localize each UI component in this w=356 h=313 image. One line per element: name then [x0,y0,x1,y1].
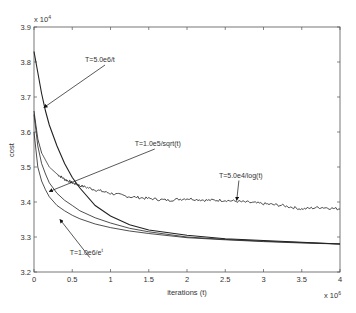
y-tick-label: 3.6 [21,128,31,137]
x-tick-label: 4 [338,275,342,284]
x-tick-label: 0.5 [67,275,77,284]
x-tick-label: 1.5 [144,275,154,284]
y-multiplier: x 104 [34,14,51,24]
y-tick-label: 3.4 [21,198,31,207]
x-tick-label: 2.5 [220,275,230,284]
x-tick-label: 2 [185,275,189,284]
y-axis-label: cost [7,142,16,157]
x-tick-label: 1 [108,275,112,284]
x-tick-label: 3 [261,275,265,284]
series-annotation: T=5.0e4/log(t) [219,172,263,180]
x-axis-label: iterations (t) [167,288,207,297]
y-tick-label: 3.3 [21,233,31,242]
series-annotation: T=1.0e5/sqrt(t) [135,140,181,148]
y-tick-label: 3.9 [21,23,31,32]
x-multiplier: x 106 [324,290,341,300]
cost-vs-iterations-chart: 00.511.522.533.543.23.33.43.53.63.73.83.… [0,0,356,313]
y-tick-label: 3.2 [21,268,31,277]
series-annotation: T=5.0e6/t [85,56,115,63]
x-tick-label: 3.5 [297,275,307,284]
y-tick-label: 3.7 [21,93,31,102]
chart-canvas: 00.511.522.533.543.23.33.43.53.63.73.83.… [0,0,356,313]
y-tick-label: 3.5 [21,163,31,172]
y-tick-label: 3.8 [21,58,31,67]
series-annotation: T=1.0e6/et [70,247,104,256]
x-tick-label: 0 [32,275,36,284]
